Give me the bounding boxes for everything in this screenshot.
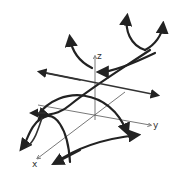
top-left-branch <box>70 38 92 68</box>
y-axis-label: y <box>153 120 159 130</box>
saddle-curves <box>22 17 163 163</box>
saddle-surface-sketch: z y x <box>0 0 177 179</box>
y-axis <box>38 105 150 125</box>
front-loop <box>22 118 42 148</box>
x-axis-label: x <box>32 159 38 169</box>
parallel-curve <box>100 53 155 72</box>
axes: z y x <box>32 51 159 169</box>
saddle-line-back <box>40 72 80 80</box>
top-right-parabola-b <box>145 25 163 50</box>
z-axis-label: z <box>97 51 102 61</box>
bottom-arc-back <box>55 150 80 163</box>
top-right-parabola <box>127 17 145 50</box>
